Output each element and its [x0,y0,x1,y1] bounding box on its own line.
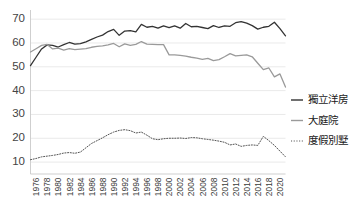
y-axis-tick-label: 50 [12,60,25,72]
x-axis-tick-label: 2004 [186,177,196,196]
x-axis-tick-label: 1988 [98,177,108,196]
x-axis-tick-label: 2014 [242,177,252,196]
legend-label-1: 大庭院 [308,114,339,126]
series-line-1 [31,42,286,88]
y-axis-tick-label: 20 [12,131,25,143]
x-axis-tick-label: 2012 [231,177,241,196]
legend-label-0: 獨立洋房 [308,93,348,105]
line-chart: 10203040506070 1976197819801982198419861… [0,0,356,214]
x-axis-tick-label: 2010 [220,177,230,196]
series-line-2 [31,130,286,160]
x-axis-tick-label: 2002 [175,177,185,196]
y-axis-tick-label: 30 [12,107,25,119]
y-axis-tick-label: 40 [12,84,25,96]
y-axis-tick-labels: 10203040506070 [12,12,25,167]
y-axis-tick-label: 60 [12,36,25,48]
x-axis-tick-label: 2020 [275,177,285,196]
gridlines [31,19,286,162]
series-line-0 [31,22,286,66]
x-axis-tick-label: 1976 [31,177,41,196]
x-axis-tick-label: 2008 [209,177,219,196]
x-axis-tick-label: 1986 [87,177,97,196]
chart-canvas: 10203040506070 1976197819801982198419861… [0,0,356,214]
x-axis-tick-label: 1998 [153,177,163,196]
x-axis-tick-label: 1992 [120,177,130,196]
x-axis-tick-label: 1978 [42,177,52,196]
x-axis-tick-label: 2018 [264,177,274,196]
legend-label-2: 度假別墅 [308,134,349,146]
y-axis-tick-label: 10 [12,155,25,167]
x-axis-tick-label: 1980 [53,177,63,196]
axis-lines [31,10,286,174]
x-axis-tick-label: 1990 [109,177,119,196]
x-axis-tick-label: 1996 [142,177,152,196]
x-axis-tick-label: 1994 [131,177,141,196]
x-axis-tick-label: 1982 [65,177,75,196]
chart-legend: 獨立洋房大庭院度假別墅 [291,93,349,146]
x-axis-tick-label: 2016 [253,177,263,196]
y-axis-tick-label: 70 [12,12,25,24]
x-axis-tick-label: 1984 [76,177,86,196]
x-axis-tick-label: 2000 [164,177,174,196]
x-axis-tick-label: 2006 [198,177,208,196]
x-axis-tick-labels: 1976197819801982198419861988199019921994… [31,177,285,196]
